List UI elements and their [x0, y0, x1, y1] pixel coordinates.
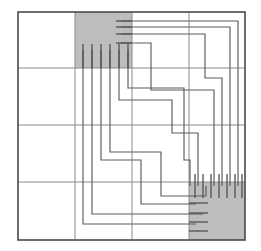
wire-4: [121, 43, 214, 186]
wire-6: [92, 50, 203, 214]
routing-diagram: [0, 0, 261, 251]
wire-10: [128, 50, 190, 186]
wire-1: [121, 21, 238, 186]
wire-8: [110, 50, 206, 196]
diagram-canvas: [0, 0, 261, 251]
wire-5: [83, 50, 196, 224]
wire-7: [101, 50, 196, 204]
wire-9: [119, 50, 198, 186]
